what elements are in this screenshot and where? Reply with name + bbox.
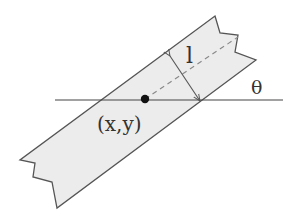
width-label: l — [186, 45, 193, 67]
angle-label: θ — [251, 78, 262, 97]
strip-diagram: (x,y) l θ — [0, 0, 294, 222]
center-point-label: (x,y) — [97, 114, 142, 134]
diagram-canvas — [0, 0, 294, 222]
center-point-dot — [141, 95, 149, 103]
